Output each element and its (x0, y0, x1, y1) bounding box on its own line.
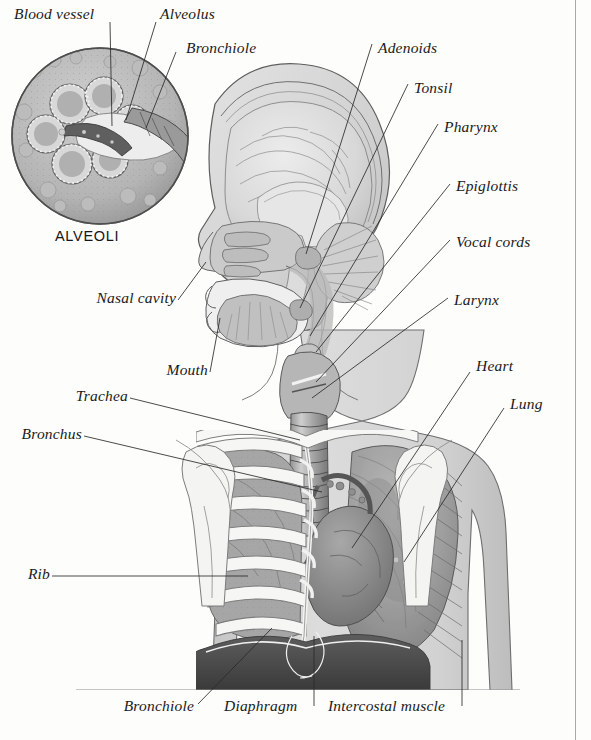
label-lung: Lung (510, 396, 543, 412)
leader-tonsil (300, 84, 408, 308)
label-vocal-cords: Vocal cords (456, 234, 530, 250)
anatomy-figure: Blood vessel Alveolus Bronchiole ALVEOLI… (0, 0, 591, 740)
leader-mouth (210, 318, 220, 372)
leader-nasal-cavity (178, 262, 206, 300)
label-pharynx: Pharynx (444, 119, 498, 135)
label-adenoids: Adenoids (378, 40, 437, 56)
label-heart: Heart (476, 358, 513, 374)
label-bronchiole-top: Bronchiole (186, 40, 256, 56)
label-mouth: Mouth (167, 362, 208, 378)
leader-bronchiole-bottom (198, 628, 272, 704)
label-intercostal-muscle: Intercostal muscle (328, 698, 445, 714)
leader-bronchiole-top (146, 52, 176, 128)
label-diaphragm: Diaphragm (224, 698, 297, 714)
leader-epiglottis (316, 184, 450, 352)
label-tonsil: Tonsil (414, 80, 453, 96)
leader-blood-vessel (110, 22, 112, 126)
label-bronchus: Bronchus (22, 426, 82, 442)
leader-larynx (312, 298, 448, 398)
label-epiglottis: Epiglottis (456, 178, 518, 194)
inset-caption-alveoli: ALVEOLI (55, 228, 119, 244)
label-bronchiole-bottom: Bronchiole (124, 698, 194, 714)
leader-pharynx (310, 124, 438, 336)
label-larynx: Larynx (454, 292, 499, 308)
leader-lung (404, 408, 504, 562)
label-rib: Rib (28, 566, 50, 582)
label-nasal-cavity: Nasal cavity (97, 290, 176, 306)
label-trachea: Trachea (76, 388, 128, 404)
leader-adenoids (306, 44, 372, 254)
page-border-rule (575, 0, 576, 740)
leader-alveolus (126, 22, 156, 120)
label-blood-vessel: Blood vessel (14, 6, 94, 22)
leader-trachea (130, 398, 300, 440)
leader-heart (352, 372, 470, 548)
label-alveolus: Alveolus (160, 6, 215, 22)
leader-bronchus (84, 436, 322, 492)
